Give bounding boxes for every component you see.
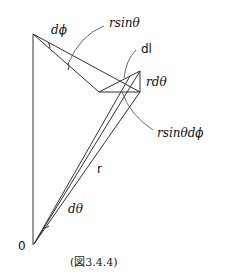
dtheta-label: dθ (68, 203, 83, 215)
dphi-label: dϕ (51, 24, 67, 36)
figure-caption: (図3.4.4) (70, 253, 118, 269)
dl-label: dl (141, 43, 152, 55)
rdtheta-label: rdθ (146, 76, 167, 88)
radius-line-3 (34, 76, 130, 244)
rsin-theta-dphi-label: rsinθdϕ (157, 127, 204, 139)
rsin-theta-label: rsinθ (109, 17, 140, 29)
r-label: r (97, 163, 102, 175)
rsin-theta-leader (68, 26, 104, 64)
origin-label: 0 (18, 240, 26, 252)
apex-line-upper (33, 34, 140, 92)
apex-line-lower (33, 34, 99, 92)
radius-line-2 (34, 92, 140, 244)
